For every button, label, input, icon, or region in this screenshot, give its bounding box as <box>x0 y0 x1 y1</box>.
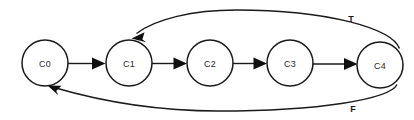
node-c1-label: C1 <box>123 59 135 69</box>
state-diagram-container: T F C0 <box>0 0 414 120</box>
edge-c4-to-c0-arrowhead <box>48 86 62 96</box>
node-c0[interactable]: C0 <box>22 40 68 86</box>
node-c2-label: C2 <box>204 59 216 69</box>
edge-c0-to-c1-arrowhead <box>92 58 106 70</box>
edge-c0-to-c1 <box>68 58 106 70</box>
node-c0-label: C0 <box>39 59 51 69</box>
edge-c1-to-c2-arrowhead <box>174 58 188 70</box>
node-c1[interactable]: C1 <box>106 40 152 86</box>
edge-label-false: F <box>350 104 356 114</box>
state-diagram-canvas: T F C0 <box>0 0 414 120</box>
edge-c3-to-c4 <box>313 58 358 70</box>
node-c3-label: C3 <box>284 59 296 69</box>
edge-label-true: T <box>348 14 354 24</box>
edge-c4-to-c0: F <box>48 85 398 115</box>
edge-c4-to-c0-path <box>54 85 397 112</box>
node-c4-label: C4 <box>374 61 386 71</box>
node-c3[interactable]: C3 <box>267 40 313 86</box>
edge-c3-to-c4-arrowhead <box>344 58 358 70</box>
node-c2[interactable]: C2 <box>187 40 233 86</box>
edge-c1-to-c2 <box>152 58 187 70</box>
edge-c4-to-c1-path <box>137 10 400 49</box>
edge-c2-to-c3 <box>233 58 267 70</box>
edge-c4-to-c1: T <box>132 10 400 49</box>
node-c4[interactable]: C4 <box>357 42 403 88</box>
edge-c2-to-c3-arrowhead <box>254 58 268 70</box>
